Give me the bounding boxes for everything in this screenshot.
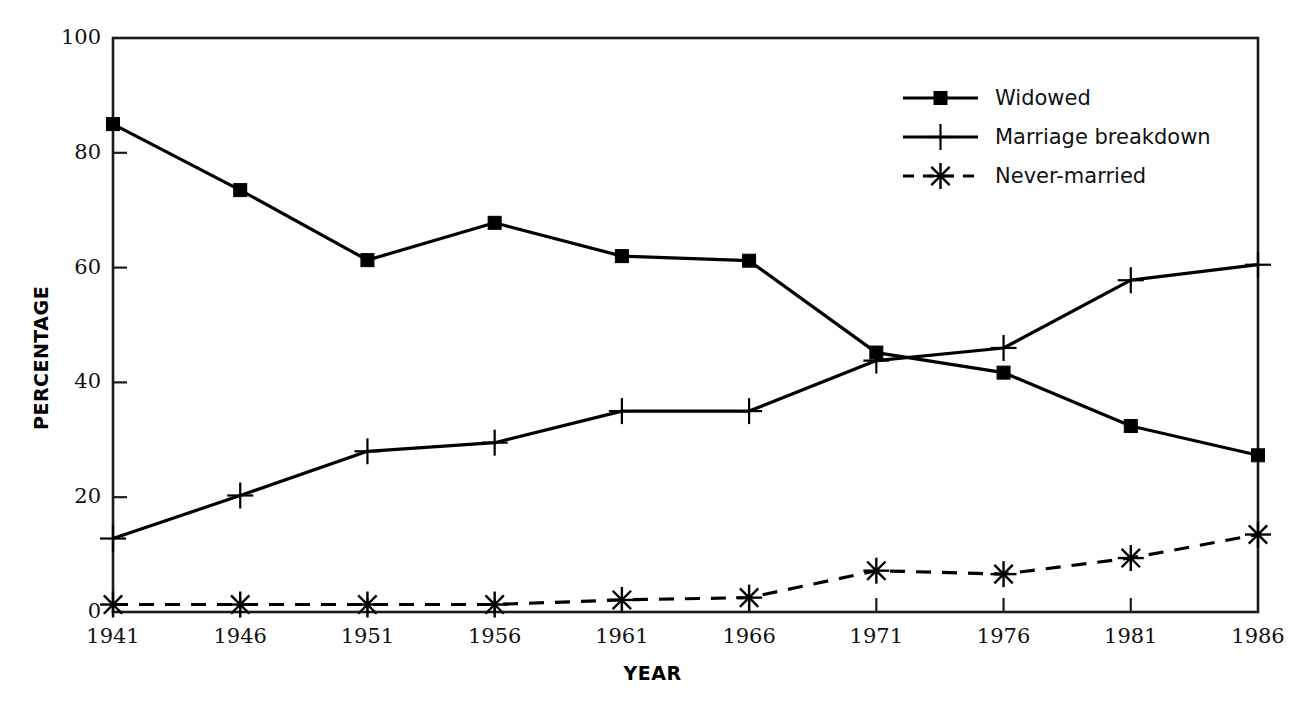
legend-glyphs xyxy=(903,92,978,190)
series-marriage-breakdown xyxy=(100,252,1271,552)
x-tick-label: 1956 xyxy=(435,626,555,647)
legend-label-widowed: Widowed xyxy=(995,88,1091,109)
x-axis-title: YEAR xyxy=(0,662,1305,684)
x-tick-label: 1986 xyxy=(1198,626,1305,647)
y-tick-label: 80 xyxy=(41,142,101,163)
legend-label-never-married: Never-married xyxy=(995,166,1146,187)
y-axis-ticks xyxy=(113,153,127,497)
x-tick-label: 1981 xyxy=(1071,626,1191,647)
y-tick-label: 100 xyxy=(41,27,101,48)
x-tick-label: 1971 xyxy=(816,626,936,647)
y-tick-label: 60 xyxy=(41,257,101,278)
x-tick-label: 1966 xyxy=(689,626,809,647)
x-tick-label: 1941 xyxy=(53,626,173,647)
legend-label-marriage-breakdown: Marriage breakdown xyxy=(995,127,1211,148)
x-tick-label: 1946 xyxy=(180,626,300,647)
x-tick-label: 1976 xyxy=(944,626,1064,647)
line-chart-canvas xyxy=(0,0,1305,708)
series-never-married xyxy=(100,522,1271,618)
x-tick-label: 1961 xyxy=(562,626,682,647)
y-tick-label: 20 xyxy=(41,486,101,507)
chart-figure: 020406080100 194119461951195619611966197… xyxy=(0,0,1305,708)
y-tick-label: 0 xyxy=(41,601,101,622)
x-tick-label: 1951 xyxy=(307,626,427,647)
y-axis-title: PERCENTAGE xyxy=(30,286,52,430)
